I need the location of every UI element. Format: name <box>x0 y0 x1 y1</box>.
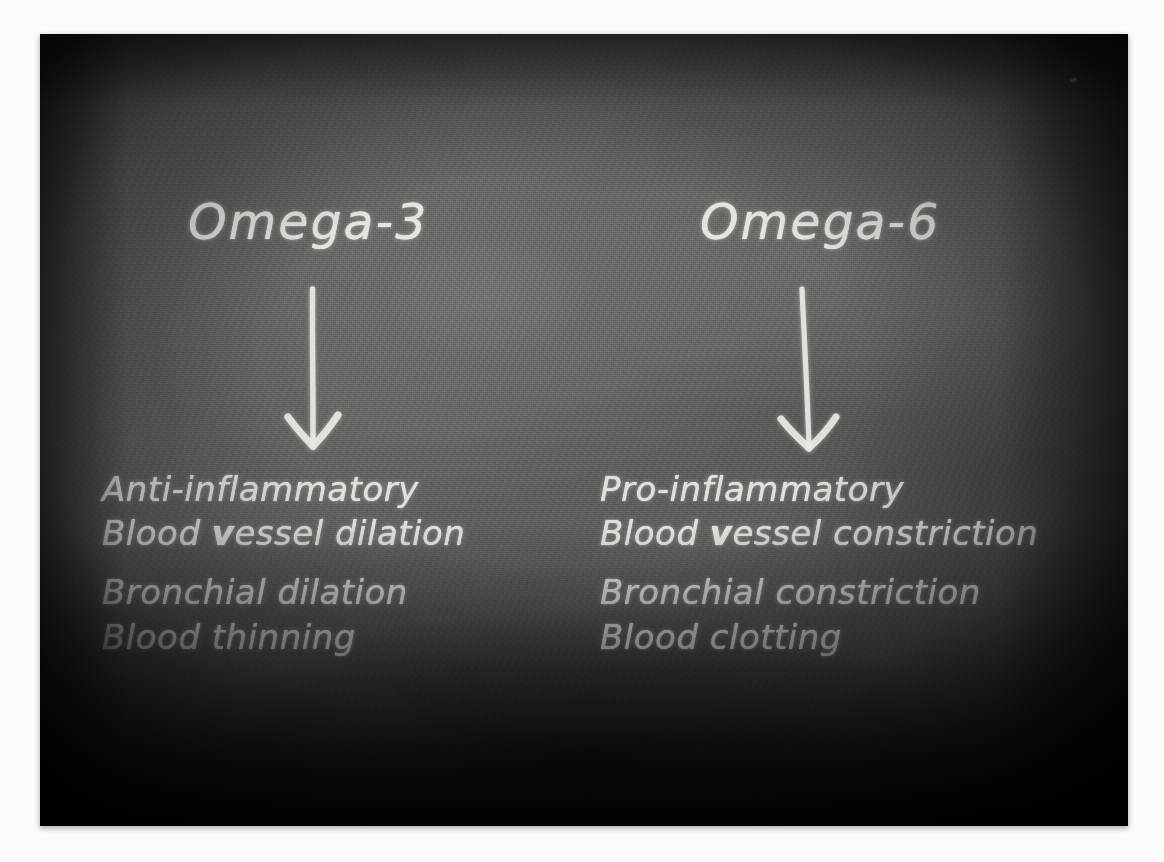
heading-omega-6: Omega-6 <box>700 194 940 251</box>
effect-line: Blood thinning <box>102 620 356 654</box>
effect-line: Bronchial dilation <box>102 575 408 609</box>
effect-line: Anti-inflammatory <box>102 472 419 506</box>
effect-text: Pro-inflammatory <box>600 469 904 509</box>
effect-text-post: essel constriction <box>732 513 1038 553</box>
effect-text: Bronchial dilation <box>102 572 408 612</box>
effect-line: Blood vessel constriction <box>600 516 1038 550</box>
effect-text-post: essel dilation <box>234 513 465 553</box>
effect-text-pre: Blood <box>600 513 710 553</box>
effect-line: Blood clotting <box>600 620 842 654</box>
effect-line: Pro-inflammatory <box>600 472 904 506</box>
chalkboard: Omega-3 Anti-inflammatory Blood vessel d… <box>40 34 1128 826</box>
effect-line: Bronchial constriction <box>600 575 981 609</box>
effect-text: Bronchial constriction <box>600 572 981 612</box>
effect-text-emphasis: v <box>212 513 235 553</box>
page-root: Omega-3 Anti-inflammatory Blood vessel d… <box>0 0 1164 862</box>
effect-text-pre: Blood <box>102 513 212 553</box>
effect-text: Blood clotting <box>600 617 842 657</box>
effect-line: Blood vessel dilation <box>102 516 465 550</box>
board-grain-texture <box>40 34 1128 826</box>
effect-text: Blood thinning <box>102 617 356 657</box>
effect-text: Anti-inflammatory <box>102 469 419 509</box>
effect-text-emphasis: v <box>710 513 733 553</box>
heading-omega-3: Omega-3 <box>188 194 428 251</box>
